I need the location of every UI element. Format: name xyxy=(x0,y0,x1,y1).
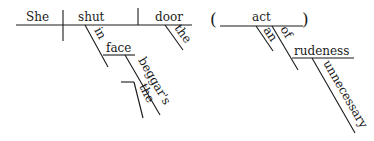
subject-word: She xyxy=(26,10,49,24)
appositive-head-word: act xyxy=(252,10,271,24)
unnecessary-word: unnecessary xyxy=(320,58,370,131)
article-word: an xyxy=(261,24,281,44)
open-paren: ( xyxy=(210,9,217,29)
preposition-word: in xyxy=(91,25,109,42)
rudeness-word: rudeness xyxy=(294,44,349,58)
sentence-diagram: She shut door the in face beggar's the (… xyxy=(0,0,374,141)
prep-object-word: face xyxy=(106,41,131,55)
verb-word: shut xyxy=(78,10,105,24)
object-word: door xyxy=(155,10,183,24)
